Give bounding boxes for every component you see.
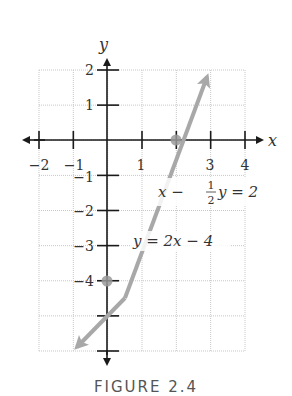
y-intercept-point xyxy=(102,276,113,287)
svg-text:1: 1 xyxy=(208,179,215,192)
y-tick-label: −4 xyxy=(73,273,94,289)
grid xyxy=(39,70,245,351)
y-tick-label: −1 xyxy=(73,169,94,185)
x-tick-label: −2 xyxy=(29,157,50,173)
figure-caption: FIGURE 2.4 xyxy=(0,378,292,396)
equation-standard-form: x − 1 2 y = 2 xyxy=(156,178,260,207)
line-lower-arrow xyxy=(77,298,125,347)
y-axis-label: y xyxy=(98,35,109,54)
x-axis-label: x xyxy=(268,131,277,150)
y-tick-label: 1 xyxy=(85,97,94,113)
svg-text:y = 2x − 4: y = 2x − 4 xyxy=(132,232,213,250)
y-tick-label: −2 xyxy=(73,203,94,219)
svg-text:2: 2 xyxy=(208,194,215,207)
x-intercept-point xyxy=(171,135,182,146)
svg-text:x −: x − xyxy=(158,183,184,201)
y-tick-label: 2 xyxy=(85,62,94,78)
x-tick-label: 1 xyxy=(137,157,146,173)
y-tick-label: −3 xyxy=(73,238,94,254)
x-tick-label: 4 xyxy=(241,157,250,173)
equation-slope-intercept: y = 2x − 4 xyxy=(131,231,231,251)
svg-text:y = 2: y = 2 xyxy=(217,183,258,201)
x-tick-label: 3 xyxy=(206,157,215,173)
